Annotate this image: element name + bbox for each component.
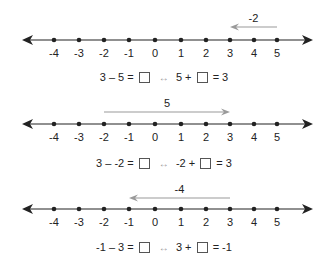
tick-dot	[102, 207, 107, 212]
tick-label: -3	[74, 131, 84, 143]
tick-label: -3	[74, 216, 84, 228]
tick-label: -2	[99, 131, 109, 143]
equation-right-a: 5 +	[176, 71, 192, 83]
tick-label: -1	[124, 131, 134, 143]
tick-dot	[204, 38, 209, 43]
tick-dot	[275, 38, 280, 43]
tick-dot	[102, 122, 107, 127]
tick-dot	[153, 207, 158, 212]
tick-label: 1	[178, 131, 184, 143]
equation-right-b: = 3	[216, 157, 232, 169]
double-arrow-icon: ↔	[159, 158, 169, 169]
tick-dot	[77, 38, 82, 43]
equation-2: 3 – -2 = ↔ -2 + = 3	[0, 156, 328, 169]
answer-box[interactable]	[200, 158, 211, 169]
equation-3: -1 – 3 = ↔ 3 + = -1	[0, 240, 328, 253]
answer-box[interactable]	[197, 242, 208, 253]
number-line-2: -4-3-2-10123455	[22, 97, 313, 143]
equation-left: -1 – 3 =	[96, 241, 134, 253]
tick-label: -2	[99, 47, 109, 59]
tick-dot	[153, 122, 158, 127]
equation-left: 3 – -2 =	[96, 157, 134, 169]
equation-1: 3 – 5 = ↔ 5 + = 3	[0, 70, 328, 83]
tick-dot	[204, 122, 209, 127]
tick-dot	[102, 38, 107, 43]
tick-dot	[127, 122, 132, 127]
tick-label: -3	[74, 47, 84, 59]
tick-dot	[77, 207, 82, 212]
tick-dot	[179, 122, 184, 127]
tick-dot	[52, 122, 57, 127]
equation-right-a: -2 +	[176, 157, 195, 169]
answer-box[interactable]	[139, 72, 150, 83]
double-arrow-icon: ↔	[159, 72, 169, 83]
tick-label: -4	[49, 47, 59, 59]
tick-label: 5	[274, 131, 280, 143]
answer-box[interactable]	[139, 242, 150, 253]
tick-dot	[228, 207, 233, 212]
jump-label: -2	[249, 12, 259, 24]
tick-label: 0	[152, 131, 158, 143]
tick-dot	[275, 207, 280, 212]
tick-label: 0	[152, 47, 158, 59]
tick-dot	[127, 207, 132, 212]
tick-label: -4	[49, 131, 59, 143]
tick-label: 4	[251, 47, 257, 59]
tick-dot	[179, 38, 184, 43]
tick-label: 5	[274, 47, 280, 59]
answer-box[interactable]	[139, 158, 150, 169]
tick-label: 3	[227, 216, 233, 228]
tick-label: 4	[251, 216, 257, 228]
jump-label: -4	[175, 183, 185, 195]
tick-dot	[252, 38, 257, 43]
tick-label: 0	[152, 216, 158, 228]
tick-dot	[77, 122, 82, 127]
tick-dot	[204, 207, 209, 212]
tick-dot	[52, 207, 57, 212]
tick-label: 3	[227, 131, 233, 143]
tick-dot	[179, 207, 184, 212]
jump-label: 5	[164, 97, 170, 109]
tick-dot	[153, 38, 158, 43]
tick-label: 2	[203, 47, 209, 59]
tick-dot	[127, 38, 132, 43]
equation-right-b: = 3	[213, 71, 229, 83]
number-line-3: -4-3-2-1012345-4	[22, 183, 313, 228]
tick-dot	[228, 122, 233, 127]
double-arrow-icon: ↔	[159, 242, 169, 253]
equation-right-b: = -1	[213, 241, 232, 253]
tick-label: 1	[178, 47, 184, 59]
tick-label: 2	[203, 216, 209, 228]
tick-dot	[252, 207, 257, 212]
tick-dot	[52, 38, 57, 43]
tick-label: 3	[227, 47, 233, 59]
tick-label: 2	[203, 131, 209, 143]
tick-dot	[275, 122, 280, 127]
tick-label: 1	[178, 216, 184, 228]
number-line-diagram: -4-3-2-1012345-2-4-3-2-10123455-4-3-2-10…	[0, 0, 328, 267]
tick-label: -2	[99, 216, 109, 228]
tick-label: -1	[124, 216, 134, 228]
number-line-1: -4-3-2-1012345-2	[22, 12, 313, 59]
answer-box[interactable]	[197, 72, 208, 83]
equation-left: 3 – 5 =	[100, 71, 134, 83]
tick-label: -4	[49, 216, 59, 228]
tick-dot	[252, 122, 257, 127]
tick-label: 4	[251, 131, 257, 143]
tick-dot	[228, 38, 233, 43]
equation-right-a: 3 +	[176, 241, 192, 253]
tick-label: -1	[124, 47, 134, 59]
tick-label: 5	[274, 216, 280, 228]
